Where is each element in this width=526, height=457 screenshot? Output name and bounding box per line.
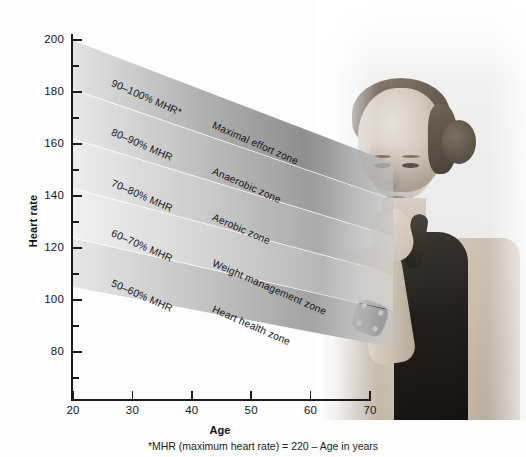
x-tick-60	[310, 391, 312, 400]
y-tick-label-100: 100	[24, 293, 64, 305]
zone-bands	[0, 0, 526, 457]
y-tick-100	[73, 299, 82, 301]
y-tick-120	[73, 247, 82, 249]
y-tick-180	[73, 91, 82, 93]
x-tick-label-30: 30	[112, 404, 152, 416]
y-minor-tick-190	[73, 65, 79, 67]
y-axis-line	[71, 34, 73, 400]
footnote: *MHR (maximum heart rate) = 220 – Age in…	[113, 440, 413, 452]
y-tick-label-200: 200	[24, 33, 64, 45]
y-tick-label-160: 160	[24, 137, 64, 149]
figure-root: 80100120140160180200 203040506070 90–100…	[0, 0, 526, 457]
x-tick-label-50: 50	[231, 404, 271, 416]
y-minor-tick-110	[73, 273, 79, 275]
x-tick-20	[72, 391, 74, 400]
y-tick-200	[73, 39, 82, 41]
y-tick-140	[73, 195, 82, 197]
x-axis-title: Age	[175, 424, 265, 436]
y-minor-tick-130	[73, 221, 79, 223]
y-axis-title: Heart rate	[27, 176, 39, 266]
x-tick-40	[191, 391, 193, 400]
y-minor-tick-70	[73, 377, 79, 379]
y-minor-tick-170	[73, 117, 79, 119]
y-tick-label-80: 80	[24, 345, 64, 357]
y-minor-tick-150	[73, 169, 79, 171]
x-tick-50	[250, 391, 252, 400]
x-tick-label-20: 20	[53, 404, 93, 416]
x-tick-label-70: 70	[350, 404, 390, 416]
y-minor-tick-90	[73, 325, 79, 327]
x-tick-70	[369, 391, 371, 400]
x-tick-label-40: 40	[172, 404, 212, 416]
x-axis-line	[71, 399, 371, 401]
plot-area: 80100120140160180200 203040506070 90–100…	[0, 0, 526, 457]
y-tick-label-180: 180	[24, 85, 64, 97]
x-tick-label-60: 60	[291, 404, 331, 416]
y-tick-80	[73, 351, 82, 353]
x-tick-30	[132, 391, 134, 400]
y-tick-160	[73, 143, 82, 145]
